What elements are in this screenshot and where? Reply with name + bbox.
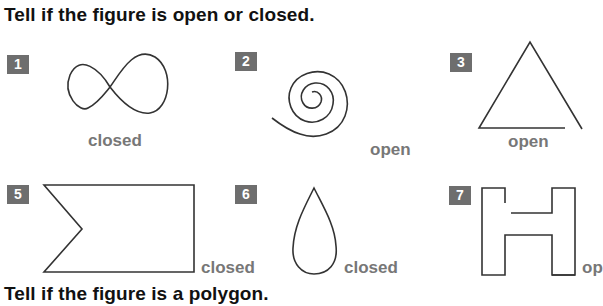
problem-number-badge: 7 [449,186,471,205]
teardrop-icon [290,186,340,278]
answer-label: closed [201,258,255,278]
answer-label: closed [344,258,398,278]
answer-label: open [370,140,411,160]
problem-number-badge: 2 [235,52,257,71]
answer-label: open [508,132,549,152]
problem-number-badge: 3 [450,53,472,72]
open-h-shape-icon [480,186,560,278]
heading-polygon: Tell if the figure is a polygon. [4,283,269,305]
spiral-icon [265,48,365,148]
answer-label: closed [88,131,142,151]
problem-number-badge: 1 [7,55,29,74]
answer-label: op [582,258,603,278]
problem-number-badge: 5 [7,185,29,204]
figure-eight-icon [60,45,180,125]
open-triangle-icon [475,38,585,133]
problem-number-badge: 6 [235,185,257,204]
heading-open-closed: Tell if the figure is open or closed. [4,4,315,26]
notched-pentagon-icon [42,184,197,276]
